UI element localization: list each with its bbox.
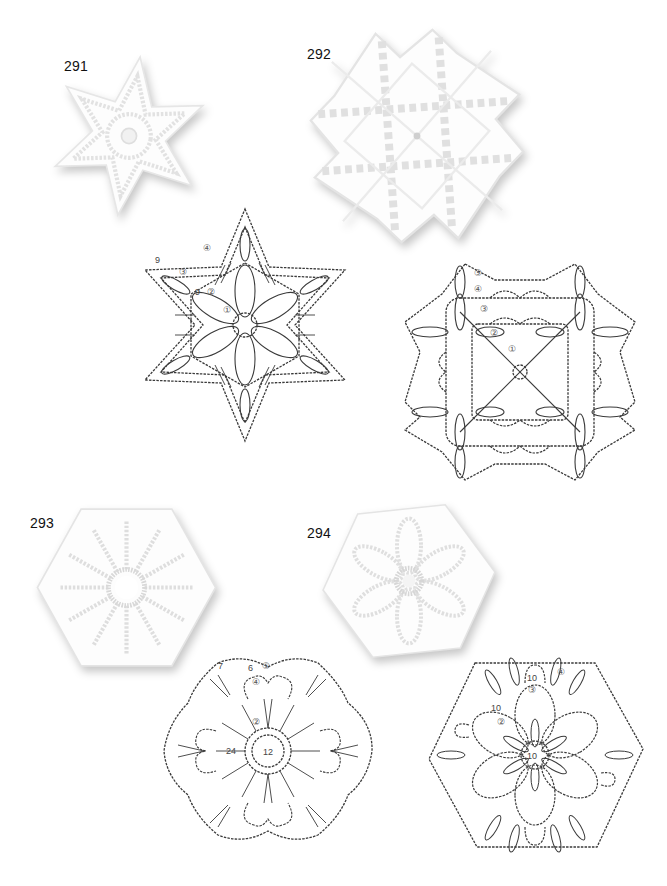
lattice-chart-diagram: ⑤ ④ ③ ② ① (400, 258, 640, 486)
round-marker-2: ② (207, 287, 215, 297)
crochet-chart-291: ④ 9 ③ 9 ② ① (140, 205, 350, 445)
hexagon-flower-photo-icon (320, 505, 498, 657)
star-chart-diagram: ④ 9 ③ 9 ② ① (140, 205, 350, 445)
star-lace-photo-icon (45, 40, 213, 232)
stitch-count-10-top: 10 (527, 673, 537, 683)
motif-photo-293 (34, 505, 219, 670)
motif-photo-291 (45, 40, 213, 232)
crochet-chart-294: 10 10 10 ③ ② ④ (425, 655, 645, 855)
crochet-chart-293: 12 24 6 7 ⑤ ④ ② (162, 654, 374, 848)
stitch-count-6: 6 (248, 663, 253, 673)
crochet-chart-292: ⑤ ④ ③ ② ① (400, 258, 640, 486)
round-marker-2: ② (497, 717, 505, 727)
stitch-count-10-petal: 10 (491, 703, 501, 713)
stitch-count-12: 12 (263, 747, 273, 757)
round-marker-3: ③ (179, 267, 187, 277)
round-marker-5: ⑤ (262, 661, 270, 671)
round-marker-2: ② (490, 328, 498, 338)
hexagon-lace-photo-icon (34, 505, 219, 670)
stitch-count-24: 24 (226, 746, 236, 756)
round-marker-4: ④ (557, 667, 565, 677)
hexagon-petal-chart-diagram: 10 10 10 ③ ② ④ (425, 655, 645, 855)
round-marker-2: ② (252, 717, 260, 727)
round-marker-3: ③ (528, 685, 536, 695)
stitch-count-7: 7 (218, 661, 223, 671)
round-marker-3: ③ (480, 304, 488, 314)
round-marker-4: ④ (474, 284, 482, 294)
round-marker-1: ① (223, 305, 231, 315)
round-marker-5: ⑤ (474, 268, 482, 278)
round-marker-4: ④ (203, 243, 211, 253)
hexagon-flower-chart-diagram: 12 24 6 7 ⑤ ④ ② (162, 654, 374, 848)
stitch-count-10-center: 10 (527, 751, 537, 761)
round-marker-1: ① (508, 344, 516, 354)
stitch-count-9a: 9 (155, 255, 160, 265)
motif-photo-294 (320, 505, 498, 657)
round-marker-4: ④ (252, 677, 260, 687)
stitch-count-9b: 9 (195, 287, 200, 297)
